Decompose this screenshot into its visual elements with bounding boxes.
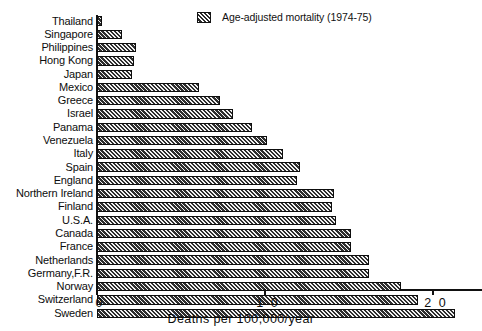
bar-chart: Age-adjusted mortality (1974-75) Thailan…	[0, 0, 482, 331]
bar	[97, 30, 122, 39]
bar	[97, 96, 220, 105]
category-label: Germany,F.R.	[28, 267, 93, 280]
category-label: France	[60, 240, 93, 253]
bar	[97, 43, 136, 52]
category-label: Israel	[67, 107, 93, 120]
category-label: Greece	[58, 94, 93, 107]
category-label: Panama	[53, 121, 93, 134]
category-label: Thailand	[52, 15, 93, 28]
x-tick-label: 2 0	[424, 296, 447, 310]
bar	[97, 255, 369, 264]
category-label: Northern Ireland	[16, 187, 93, 200]
bar	[97, 216, 336, 225]
bar	[97, 229, 351, 238]
x-tick-mark	[264, 289, 266, 295]
bar	[97, 83, 199, 92]
category-label: Hong Kong	[39, 54, 93, 67]
category-label: Venezuela	[43, 134, 93, 147]
category-label: England	[54, 174, 93, 187]
bar	[97, 16, 102, 25]
bar	[97, 136, 267, 145]
x-tick-label: 1 0	[256, 296, 279, 310]
bar	[97, 149, 283, 158]
category-label: Singapore	[44, 28, 93, 41]
bar	[97, 70, 132, 79]
category-label: Mexico	[59, 81, 93, 94]
bar	[97, 176, 297, 185]
category-label: Spain	[66, 161, 93, 174]
category-label: Italy	[74, 147, 93, 160]
category-label: Japan	[64, 68, 93, 81]
bar	[97, 162, 300, 171]
category-label: Finland	[58, 200, 93, 213]
category-label: Canada	[55, 227, 93, 240]
bar	[97, 282, 401, 291]
bar	[97, 189, 334, 198]
bar	[97, 109, 233, 118]
bar	[97, 123, 252, 132]
category-label: Switzerland	[38, 293, 93, 306]
category-label: Netherlands	[35, 254, 93, 267]
bar	[97, 269, 369, 278]
x-tick-mark	[432, 289, 434, 295]
category-label: Philippines	[41, 41, 93, 54]
category-label: Norway	[57, 280, 93, 293]
plot-area: ThailandSingaporePhilippinesHong KongJap…	[97, 15, 482, 290]
category-label: U.S.A.	[62, 214, 93, 227]
bar	[97, 56, 134, 65]
x-tick-label: 0	[96, 296, 105, 310]
x-axis-title: Deaths per 100,000/year	[0, 312, 482, 326]
bar	[97, 242, 351, 251]
bar	[97, 202, 332, 211]
x-tick-mark	[96, 289, 98, 295]
